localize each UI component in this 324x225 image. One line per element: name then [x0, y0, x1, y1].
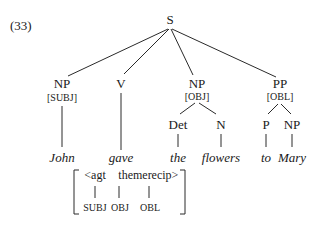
branch-pp-np [281, 104, 291, 114]
branch-pp-p [268, 104, 278, 114]
role-theme: theme [118, 168, 147, 182]
syntax-tree-diagram: (33) S NP [SUBJ] V NP [OBJ] PP [OBL] Det… [0, 0, 324, 225]
node-s: S [166, 12, 173, 27]
branch-np-n [199, 103, 216, 114]
function-subj: SUBJ [83, 202, 106, 213]
node-np-subj: NP [54, 76, 71, 91]
word-to: to [261, 150, 272, 165]
branch-s-pp-obl [172, 29, 276, 77]
word-john: John [49, 150, 74, 165]
node-np-obj: NP [189, 76, 206, 91]
argument-structure: <agt theme recip> SUBJ OBJ OBL [74, 168, 185, 214]
word-mary: Mary [277, 150, 306, 165]
word-the: the [170, 150, 186, 165]
function-obl: OBL [140, 202, 160, 213]
example-number: (33) [10, 18, 32, 33]
node-p: P [262, 117, 269, 132]
branch-s-np-subj [68, 29, 168, 76]
branch-np-det [180, 103, 195, 114]
feature-obl: [OBL] [267, 91, 294, 102]
feature-obj: [OBJ] [185, 91, 209, 102]
node-pp-obl: PP [273, 76, 287, 91]
feature-subj: [SUBJ] [47, 92, 77, 103]
branch-s-v [124, 29, 169, 74]
node-det: Det [169, 117, 188, 132]
role-recip: recip> [148, 168, 179, 182]
role-agt: <agt [84, 168, 106, 182]
right-bracket [180, 170, 185, 214]
left-bracket [74, 170, 79, 214]
node-v: V [116, 76, 126, 91]
branch-s-np-obj [171, 29, 193, 75]
function-obj: OBJ [111, 202, 129, 213]
word-gave: gave [109, 150, 134, 165]
node-np-inner: NP [284, 117, 301, 132]
word-flowers: flowers [202, 150, 240, 165]
node-n: N [216, 117, 226, 132]
